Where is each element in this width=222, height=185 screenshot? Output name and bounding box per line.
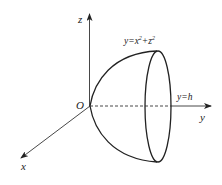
origin-label: O <box>76 99 84 111</box>
cross-section-ellipse <box>145 51 171 162</box>
x-axis-label: x <box>20 160 26 172</box>
x-axis <box>21 106 90 158</box>
paraboloid-diagram: z y x O y=x2+z2 y=h <box>0 0 222 185</box>
surface-equation-label: y=x2+z2 <box>123 35 155 46</box>
plane-equation-label: y=h <box>176 92 193 102</box>
z-axis-label: z <box>77 13 83 25</box>
y-axis-label: y <box>199 111 205 123</box>
